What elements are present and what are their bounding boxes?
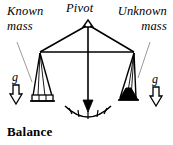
pivot-label: Pivot: [66, 2, 93, 15]
gravity-arrow-left-icon: [10, 85, 22, 104]
pointer-needle-arrowhead: [83, 100, 93, 112]
pivot-arm-left: [40, 26, 86, 52]
known-mass-label-line1: Known: [7, 4, 43, 18]
gauge-tick-2: [78, 110, 79, 117]
right-pan-group: [118, 53, 139, 100]
unknown-mass-leader-line: [138, 42, 150, 78]
unknown-mass-label: Unknown mass: [118, 5, 167, 32]
gravity-label-right: g: [152, 73, 158, 85]
unknown-mass-label-line1: Unknown: [118, 4, 167, 18]
unknown-mass-label-line2: mass: [118, 20, 167, 33]
known-mass-leader-line: [17, 42, 32, 82]
figure-caption: Balance: [7, 125, 52, 138]
gravity-label-left: g: [12, 71, 18, 83]
gauge-tick-4: [97, 110, 98, 117]
left-pan-group: [30, 53, 55, 101]
known-mass-label: Known mass: [7, 5, 43, 32]
balance-figure: Known mass Unknown mass Pivot g g Balanc…: [0, 0, 173, 145]
left-pan-tray: [32, 95, 53, 101]
left-pan-cord-outer2: [40, 53, 52, 96]
pivot-apex-icon: [83, 20, 93, 27]
known-mass-label-line2: mass: [7, 20, 43, 33]
right-pan-cord-outer2: [134, 53, 136, 98]
gravity-arrow-right-icon: [150, 87, 162, 106]
